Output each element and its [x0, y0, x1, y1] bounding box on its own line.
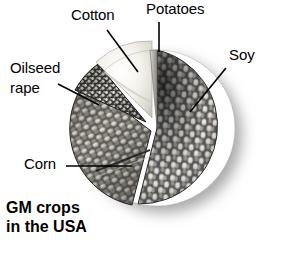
gm-crops-pie-figure: Cotton Potatoes Soy Oilseed rape Corn GM… — [0, 0, 282, 254]
pie-label-potatoes: Potatoes — [146, 0, 204, 17]
chart-title: GM crops in the USA — [6, 198, 87, 236]
pie-label-cotton: Cotton — [71, 6, 115, 23]
pie-label-soy: Soy — [229, 46, 255, 63]
pie-label-corn: Corn — [24, 155, 56, 172]
pie-label-oilseed-rape: Oilseed rape — [10, 58, 100, 98]
